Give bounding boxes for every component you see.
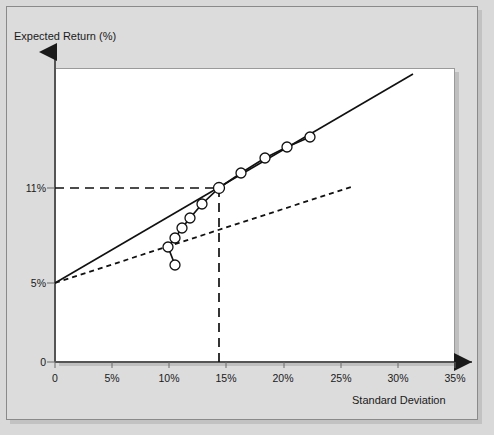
y-tick-label-5: 5% — [10, 277, 46, 289]
efficient-frontier-markers — [163, 132, 315, 270]
frontier-data-point — [236, 168, 246, 178]
x-tick-label-0: 0 — [35, 372, 75, 384]
x-tick-label-25: 25% — [321, 372, 361, 384]
efficient-frontier-curve — [168, 137, 310, 265]
frontier-data-point — [177, 223, 187, 233]
frontier-data-point — [260, 153, 270, 163]
frontier-data-point — [282, 142, 292, 152]
x-tick-label-5: 5% — [92, 372, 132, 384]
tangency-portfolio-point — [214, 183, 225, 194]
y-axis-ticks — [47, 188, 55, 362]
frontier-data-point — [185, 213, 195, 223]
x-tick-label-30: 30% — [378, 372, 418, 384]
x-tick-label-10: 10% — [149, 372, 189, 384]
frontier-data-point — [305, 132, 315, 142]
y-tick-label-11: 11% — [10, 182, 46, 194]
x-axis-title: Standard Deviation — [352, 394, 446, 406]
chart-vector-overlay — [0, 0, 494, 435]
y-axis-title: Expected Return (%) — [14, 30, 116, 42]
y-tick-label-0: 0 — [10, 356, 46, 368]
x-tick-label-35: 35% — [435, 372, 475, 384]
frontier-data-point — [163, 242, 173, 252]
chart-figure: Expected Return (%) Standard Deviation 1… — [0, 0, 494, 435]
frontier-data-point — [170, 233, 180, 243]
x-tick-label-20: 20% — [263, 372, 303, 384]
x-tick-label-15: 15% — [206, 372, 246, 384]
frontier-data-point — [170, 260, 180, 270]
frontier-data-point — [197, 199, 207, 209]
